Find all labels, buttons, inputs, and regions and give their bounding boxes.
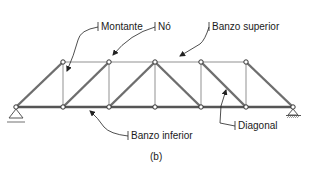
figure-caption: (b) [150,151,162,162]
node [244,60,248,64]
node [199,60,203,64]
node [153,105,157,109]
label-banzo-superior: Banzo superior [212,21,280,32]
node [61,105,65,109]
leader-lines [67,22,235,140]
node [61,60,65,64]
verticals [63,62,246,107]
label-montante: Montante [101,21,143,32]
label-no: Nó [158,21,171,32]
pin-support-icon [7,109,25,122]
node [199,105,203,109]
node [107,105,111,109]
node [107,60,111,64]
label-banzo-inferior: Banzo inferior [131,130,193,141]
node [244,105,248,109]
node [153,60,157,64]
label-diagonal: Diagonal [238,120,277,131]
roller-support-icon [286,109,301,118]
truss-diagram: Montante Nó Banzo superior Banzo inferio… [0,0,313,170]
